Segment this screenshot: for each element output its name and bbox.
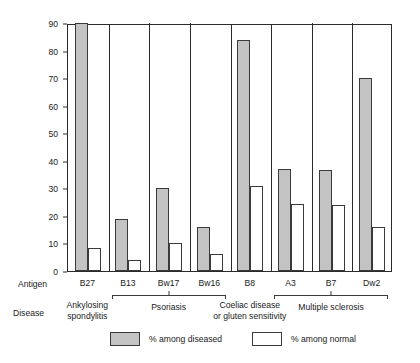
y-tick-label: 20 (48, 212, 62, 222)
disease-row-label: Disease (13, 308, 44, 318)
y-tick-label: 10 (48, 239, 62, 249)
antigen-label: Bw16 (198, 278, 220, 288)
y-tick-label: 80 (48, 47, 62, 57)
legend: % among diseased % among normal (0, 332, 420, 354)
bar-diseased (156, 188, 169, 271)
group-separator (231, 25, 232, 271)
antigen-label: B27 (80, 278, 95, 288)
bar-normal (88, 248, 101, 271)
legend-label-diseased: % among diseased (149, 334, 222, 344)
plot-area (67, 24, 392, 272)
category-separator (190, 23, 191, 271)
bar-normal (291, 204, 304, 272)
y-tick-label: 0 (53, 267, 62, 277)
bars-layer (68, 25, 391, 271)
category-separator (352, 23, 353, 271)
bar-normal (210, 254, 223, 271)
disease-label: Ankylosing spondylitis (67, 300, 109, 322)
legend-swatch-normal (252, 332, 282, 346)
group-separator (271, 25, 272, 271)
category-separator (149, 23, 150, 271)
bar-diseased (237, 40, 250, 271)
antigen-label: B8 (245, 278, 256, 288)
disease-label: Multiple sclerosis (298, 302, 363, 313)
bar-normal (128, 260, 141, 271)
bar-diseased (319, 170, 332, 271)
legend-swatch-diseased (110, 332, 140, 346)
antigen-label: A3 (285, 278, 296, 288)
y-tick-label: 70 (48, 74, 62, 84)
bar-normal (372, 227, 385, 271)
bar-normal (332, 205, 345, 271)
disease-bracket (274, 291, 388, 298)
antigen-label: Dw2 (363, 278, 380, 288)
bar-diseased (115, 219, 128, 271)
y-tick-label: 30 (48, 184, 62, 194)
antigen-row-label: Antigen (18, 279, 47, 289)
disease-bracket (112, 291, 226, 298)
disease-label: Psoriasis (151, 302, 186, 313)
category-separator (312, 23, 313, 271)
legend-label-normal: % among normal (291, 334, 356, 344)
bar-normal (250, 186, 263, 271)
bar-diseased (197, 227, 210, 271)
bar-diseased (359, 78, 372, 271)
disease-label: Coeliac disease or gluten sensitivity (213, 300, 286, 322)
antigen-label: B7 (326, 278, 337, 288)
y-tick-label: 90 (48, 19, 62, 29)
legend-item-normal: % among normal (252, 332, 356, 346)
legend-item-diseased: % among diseased (110, 332, 222, 346)
y-tick-label: 60 (48, 102, 62, 112)
y-tick-label: 50 (48, 129, 62, 139)
y-axis-title-wrap: Percentage having antigen (18, 24, 38, 272)
antigen-disease-bar-chart: Percentage having antigen 01020304050607… (0, 0, 420, 363)
antigen-label: Bw17 (158, 278, 180, 288)
bar-normal (169, 243, 182, 271)
y-tick-label: 40 (48, 157, 62, 167)
group-separator (109, 25, 110, 271)
bar-diseased (75, 23, 88, 271)
bar-diseased (278, 169, 291, 271)
antigen-label: B13 (120, 278, 135, 288)
